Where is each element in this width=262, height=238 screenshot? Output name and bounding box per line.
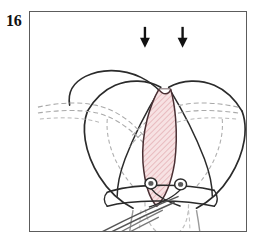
surgical-illustration	[30, 12, 246, 231]
page-root: 16	[0, 0, 262, 238]
figure-frame	[29, 11, 247, 232]
clipped-caption-above	[0, 0, 262, 7]
direction-arrows	[140, 27, 188, 48]
fallopian-tubes	[38, 103, 238, 186]
arrow-down-left-icon	[140, 27, 150, 48]
ligature-knot-right	[175, 179, 187, 190]
ligature-knot-left	[145, 178, 157, 189]
arrow-down-right-icon	[178, 27, 188, 48]
figure-number-label: 16	[6, 12, 21, 29]
